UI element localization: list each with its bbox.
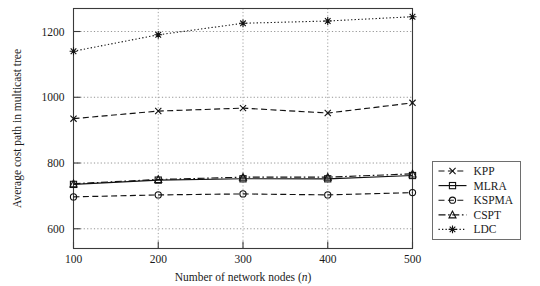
legend-marker-ldc xyxy=(449,226,457,234)
y-axis-title: Average cost path in multicast tree xyxy=(11,49,24,208)
marker-asterisk xyxy=(409,13,417,21)
x-tick-label-500: 500 xyxy=(404,253,422,265)
datapoint-ldc-400 xyxy=(324,17,332,25)
marker-asterisk xyxy=(449,226,457,234)
marker-asterisk xyxy=(239,19,247,27)
marker-asterisk xyxy=(154,31,162,39)
legend-label-cspt: CSPT xyxy=(474,209,502,221)
legend-label-kpp: KPP xyxy=(474,165,495,177)
datapoint-ldc-300 xyxy=(239,19,247,27)
marker-asterisk xyxy=(324,17,332,25)
x-tick-label-300: 300 xyxy=(234,253,252,265)
datapoint-ldc-200 xyxy=(154,31,162,39)
x-tick-label-400: 400 xyxy=(319,253,337,265)
y-tick-label-1200: 1200 xyxy=(42,26,65,38)
legend: KPPMLRAKSPMACSPTLDC xyxy=(433,162,521,240)
series-kspma xyxy=(70,190,415,200)
legend-label-kspma: KSPMA xyxy=(474,194,514,206)
datapoint-ldc-100 xyxy=(70,47,78,55)
marker-asterisk xyxy=(70,47,78,55)
x-tick-label-200: 200 xyxy=(150,253,168,265)
line-chart: 60080010001200100200300400500Number of n… xyxy=(0,0,540,286)
legend-label-ldc: LDC xyxy=(474,223,497,235)
chart-figure: 60080010001200100200300400500Number of n… xyxy=(0,0,540,286)
x-axis-title: Number of network nodes (n) xyxy=(175,271,312,284)
legend-label-mlra: MLRA xyxy=(474,180,508,192)
y-tick-label-1000: 1000 xyxy=(42,91,65,103)
x-tick-label-100: 100 xyxy=(65,253,83,265)
y-tick-label-800: 800 xyxy=(47,157,65,169)
y-tick-label-600: 600 xyxy=(47,223,65,235)
datapoint-ldc-500 xyxy=(409,13,417,21)
